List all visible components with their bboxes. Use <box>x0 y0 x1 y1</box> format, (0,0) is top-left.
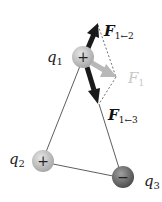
dashed-line-lower <box>99 77 116 104</box>
diagram-canvas: + + − q1 q2 q3 F1←2 F1 F1←3 <box>0 0 162 202</box>
label-f1-net: F1 <box>127 69 144 88</box>
plus-sign-icon: + <box>37 153 49 169</box>
plus-sign-icon: + <box>77 49 89 65</box>
charge-q2: + <box>32 150 54 172</box>
label-f13: F1←3 <box>107 106 138 125</box>
f13-shaft <box>87 67 94 90</box>
label-q3: q3 <box>144 172 160 191</box>
force-arrow-f12 <box>87 23 99 48</box>
f1-shaft <box>92 63 104 70</box>
force-arrow-f13 <box>87 67 100 104</box>
minus-sign-icon: − <box>117 169 129 185</box>
charge-q3: − <box>112 166 134 188</box>
force-arrow-f1-net <box>92 63 117 77</box>
f12-shaft <box>88 34 94 48</box>
charge-q1: + <box>72 46 94 68</box>
f13-arrowhead <box>88 88 100 104</box>
label-q2: q2 <box>9 150 25 169</box>
line-q1-q2 <box>46 66 80 152</box>
line-q2-q3 <box>53 164 113 176</box>
label-f12: F1←2 <box>103 22 134 41</box>
label-q1: q1 <box>47 48 63 67</box>
